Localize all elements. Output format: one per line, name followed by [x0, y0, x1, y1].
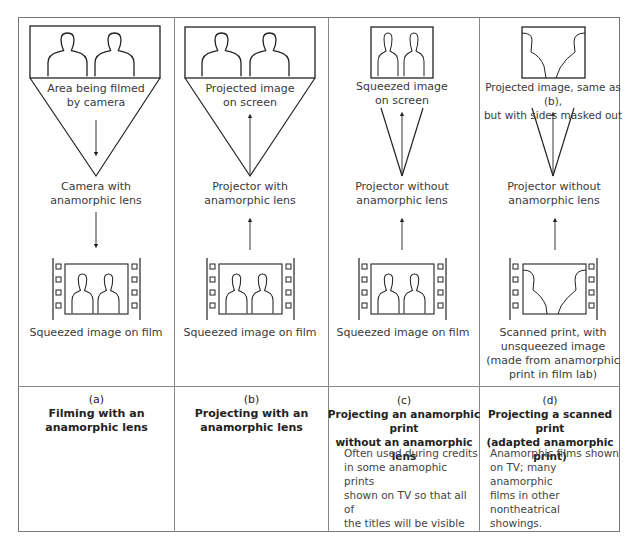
panel-a-bottom-label: Squeezed image on film	[20, 326, 172, 340]
panel-b-bottom-label: Squeezed image on film	[174, 326, 326, 340]
panel-a-letter: (a)	[19, 393, 174, 407]
panel-c-note: Often used during credits in some anamop…	[344, 446, 478, 530]
panel-c-letter: (c)	[326, 393, 482, 407]
panel-b-middle-label: Projector with anamorphic lens	[178, 180, 322, 208]
panel-b-title: Projecting with an anamorphic lens	[175, 407, 328, 435]
panel-c-top-label: Squeezed image on screen	[336, 80, 468, 108]
panel-c-artwork	[359, 27, 446, 320]
panel-b-caption: (b) Projecting with an anamorphic lens	[175, 393, 328, 435]
panel-d-artwork	[510, 27, 597, 320]
panel-a-top-label: Area being filmed by camera	[30, 82, 162, 110]
panel-a-title: Filming with an anamorphic lens	[19, 407, 174, 435]
panel-d-top-label: Projected image, same as (b), but with s…	[480, 80, 626, 122]
panel-a-artwork	[30, 26, 160, 320]
panel-c-bottom-label: Squeezed image on film	[328, 326, 478, 340]
panel-a-middle-label: Camera with anamorphic lens	[24, 180, 168, 208]
panel-a-caption: (a) Filming with an anamorphic lens	[19, 393, 174, 435]
panel-d-letter: (d)	[479, 393, 621, 407]
panel-b-letter: (b)	[175, 393, 328, 407]
panel-b-artwork	[185, 27, 315, 320]
panel-d-middle-label: Projector without anamorphic lens	[482, 180, 626, 208]
panel-b-top-label: Projected image on screen	[184, 82, 316, 110]
panel-d-note: Anamorphic films shown on TV; many anamo…	[490, 446, 620, 530]
panel-d-bottom-label: Scanned print, with unsqueezed image (ma…	[480, 326, 626, 382]
panel-c-middle-label: Projector without anamorphic lens	[330, 180, 474, 208]
